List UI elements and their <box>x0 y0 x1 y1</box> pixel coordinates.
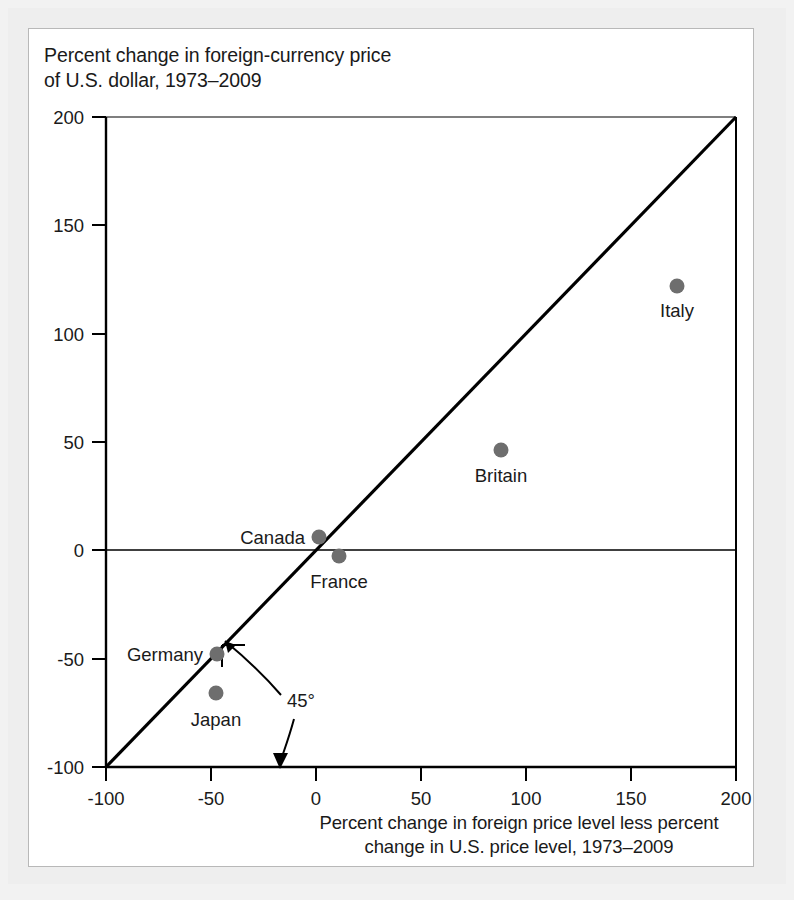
data-points <box>209 279 685 701</box>
x-axis-tick-labels: -100 -50 0 50 100 150 200 <box>87 788 751 809</box>
figure-card: Percent change in foreign-currency price… <box>28 28 754 867</box>
data-point-france[interactable] <box>332 549 347 564</box>
x-tick-label: 50 <box>411 788 432 809</box>
y-tick-label: 200 <box>53 107 84 128</box>
y-tick-label: 50 <box>63 432 84 453</box>
x-tick-label: -50 <box>198 788 225 809</box>
y-axis-ticks <box>92 117 106 767</box>
x-tick-label: 100 <box>511 788 542 809</box>
data-label-italy: Italy <box>660 300 695 321</box>
y-tick-label: 150 <box>53 215 84 236</box>
data-label-japan: Japan <box>191 709 241 730</box>
data-label-france: France <box>310 571 368 592</box>
x-tick-label: 200 <box>721 788 752 809</box>
y-axis-tick-labels: 200 150 100 50 0 -50 -100 <box>47 107 84 778</box>
y-tick-label: 0 <box>74 540 84 561</box>
x-axis-ticks <box>106 767 736 781</box>
x-tick-label: -100 <box>87 788 124 809</box>
x-tick-label: 0 <box>311 788 321 809</box>
x-tick-label: 150 <box>616 788 647 809</box>
y-tick-label: -100 <box>47 757 84 778</box>
y-tick-label: -50 <box>57 649 84 670</box>
forty-five-degree-line <box>106 117 736 767</box>
data-point-britain[interactable] <box>494 443 509 458</box>
angle-leader-line <box>225 641 281 695</box>
data-point-italy[interactable] <box>670 279 685 294</box>
page-root: Percent change in foreign-currency price… <box>0 0 794 900</box>
data-point-japan[interactable] <box>209 686 224 701</box>
angle-arrow-to-axis <box>273 719 294 769</box>
data-label-germany: Germany <box>127 644 204 665</box>
angle-annotation-label: 45° <box>287 690 315 711</box>
scatter-plot: 200 150 100 50 0 -50 -100 <box>29 29 753 866</box>
data-label-canada: Canada <box>240 527 306 548</box>
data-label-britain: Britain <box>475 465 527 486</box>
data-point-labels: Italy Britain Canada France Germany Japa… <box>127 300 695 730</box>
data-point-germany[interactable] <box>210 647 225 662</box>
y-tick-label: 100 <box>53 324 84 345</box>
x-axis-title: Percent change in foreign price level le… <box>269 811 769 859</box>
data-point-canada[interactable] <box>312 530 327 545</box>
outer-frame: Percent change in foreign-currency price… <box>8 8 786 884</box>
